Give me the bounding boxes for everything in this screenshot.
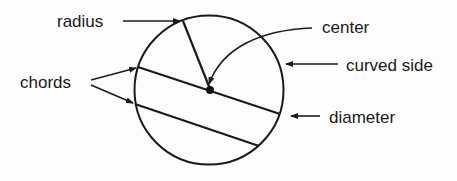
label-chords: chords [20, 73, 71, 92]
chords-arrow-lower [91, 85, 133, 103]
chords-arrow-upper [91, 68, 136, 80]
diagram-canvas: radius center curved side chords diamete… [0, 0, 457, 181]
radius-line [183, 21, 210, 89]
label-radius: radius [57, 12, 103, 31]
circle-diagram: radius center curved side chords diamete… [0, 0, 457, 181]
center-point [206, 86, 214, 94]
label-center: center [322, 18, 370, 37]
label-diameter: diameter [329, 108, 395, 127]
center-arrow [209, 28, 312, 84]
label-curved-side: curved side [346, 56, 433, 75]
